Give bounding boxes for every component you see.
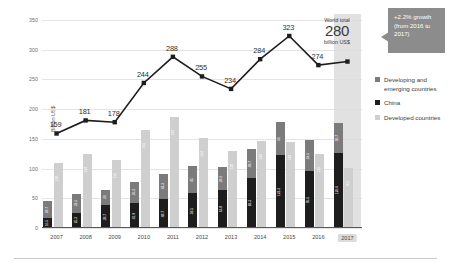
legend-label: Developing and emerging countries	[384, 76, 447, 93]
line-point-label: 288	[166, 44, 178, 53]
legend-swatch-icon	[375, 100, 380, 105]
world-total-line	[57, 36, 348, 133]
legend-item[interactable]: Developing and emerging countries	[375, 76, 447, 93]
x-axis-tick-2012: 2012	[196, 234, 208, 240]
x-axis-tick-2007: 2007	[50, 234, 62, 240]
legend-item[interactable]: China	[375, 99, 447, 108]
legend-label: Developed countries	[384, 114, 440, 123]
line-marker[interactable]	[316, 63, 320, 67]
line-marker[interactable]	[113, 120, 117, 124]
world-total-unit: billion US$	[312, 39, 362, 45]
line-marker[interactable]	[200, 74, 204, 78]
x-axis-tick-2016: 2016	[312, 234, 324, 240]
x-axis-tick-2014: 2014	[254, 234, 266, 240]
line-point-label: 284	[253, 46, 265, 55]
chart-container: Billion US$ 050100150200250300350 16.528…	[0, 0, 451, 270]
line-point-label: 159	[50, 120, 62, 129]
x-axis-tick-2010: 2010	[138, 234, 150, 240]
line-point-label: 234	[224, 76, 236, 85]
legend-item[interactable]: Developed countries	[375, 114, 447, 123]
line-point-label: 244	[137, 70, 149, 79]
line-point-label: 323	[282, 23, 294, 32]
x-axis-tick-2008: 2008	[79, 234, 91, 240]
y-axis-tick: 300	[29, 47, 38, 53]
y-axis-tick: 350	[29, 17, 38, 23]
plot-area: Billion US$ 050100150200250300350 16.528…	[42, 14, 362, 228]
line-point-label: 255	[195, 63, 207, 72]
chart-legend: Developing and emerging countriesChinaDe…	[375, 76, 447, 128]
y-axis-tick: 50	[32, 195, 38, 201]
legend-swatch-icon	[375, 77, 380, 82]
line-marker[interactable]	[345, 59, 349, 63]
line-point-label: 178	[108, 109, 120, 118]
world-total-value: 280	[312, 23, 362, 39]
y-axis-tick: 150	[29, 136, 38, 142]
grid-line	[42, 228, 362, 229]
x-axis-tick-2017: 2017	[338, 234, 356, 242]
y-axis-tick: 200	[29, 106, 38, 112]
line-marker[interactable]	[171, 55, 175, 59]
line-marker[interactable]	[229, 87, 233, 91]
y-axis-tick: 250	[29, 76, 38, 82]
legend-label: China	[384, 99, 400, 108]
x-axis-tick-2011: 2011	[167, 234, 179, 240]
y-axis-tick: 100	[29, 166, 38, 172]
line-marker[interactable]	[258, 57, 262, 61]
line-marker[interactable]	[287, 34, 291, 38]
footer-divider	[14, 258, 437, 259]
growth-callout: +2.2% growth (from 2016 to 2017)	[388, 8, 445, 53]
line-point-label: 274	[311, 52, 323, 61]
legend-swatch-icon	[375, 115, 380, 120]
line-marker[interactable]	[142, 81, 146, 85]
x-axis	[42, 227, 362, 228]
x-axis-tick-2009: 2009	[108, 234, 120, 240]
line-marker[interactable]	[54, 131, 58, 135]
line-series	[42, 14, 362, 228]
line-point-label: 181	[79, 107, 91, 116]
line-marker[interactable]	[83, 118, 87, 122]
x-axis-tick-2015: 2015	[283, 234, 295, 240]
x-axis-tick-2013: 2013	[225, 234, 237, 240]
world-total-callout: World total 280 billion US$	[312, 17, 362, 45]
y-axis-tick: 0	[35, 225, 38, 231]
